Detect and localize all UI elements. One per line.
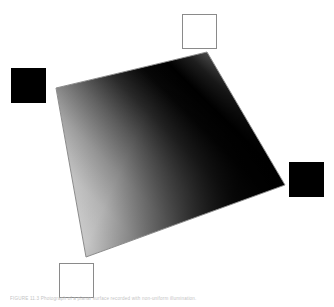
marker-bottom-white [60, 264, 94, 298]
marker-right-black [290, 163, 324, 197]
marker-top-white [183, 15, 217, 49]
figure-root: FIGURE 11.3 Photograph of a planar surfa… [0, 0, 334, 307]
caption-layer: FIGURE 11.3 Photograph of a planar surfa… [0, 295, 334, 307]
marker-left-black [12, 69, 46, 103]
figure-canvas [0, 0, 334, 307]
figure-caption: FIGURE 11.3 Photograph of a planar surfa… [10, 295, 330, 302]
